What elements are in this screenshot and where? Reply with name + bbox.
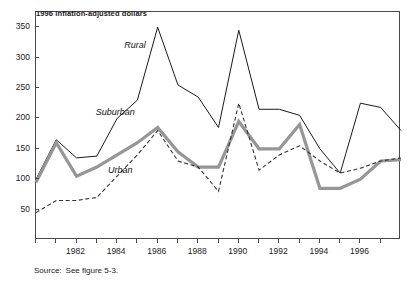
y-tick-label: 100 (16, 173, 30, 183)
x-tick-mark (299, 239, 300, 243)
x-tick-label: 1988 (188, 246, 207, 256)
x-tick-mark (136, 239, 137, 243)
series-label-suburban: Suburban (96, 107, 135, 117)
source-note: Source:See figure 5-3. (34, 266, 118, 275)
x-tick-mark (157, 239, 158, 243)
y-tick-label: 50 (21, 204, 30, 214)
x-tick-label: 1984 (107, 246, 126, 256)
x-tick-mark (35, 239, 36, 243)
x-tick-mark (359, 239, 360, 243)
plot-area: 1996 inflation-adjusted dollars (35, 11, 400, 239)
y-tick-label: 150 (16, 143, 30, 153)
x-tick-label: 1992 (269, 246, 288, 256)
series-lines (36, 12, 401, 240)
series-label-urban: Urban (108, 165, 133, 175)
x-tick-label: 1982 (66, 246, 85, 256)
y-tick-mark (35, 57, 39, 58)
chart-figure: 1996 inflation-adjusted dollars 50100150… (0, 0, 408, 281)
y-tick-mark (35, 26, 39, 27)
y-tick-label: 250 (16, 82, 30, 92)
y-tick-label: 350 (16, 21, 30, 31)
series-line-rural (36, 27, 401, 179)
x-tick-label: 1990 (228, 246, 247, 256)
x-tick-mark (339, 239, 340, 243)
x-tick-mark (197, 239, 198, 243)
x-tick-mark (96, 239, 97, 243)
x-tick-label: 1986 (147, 246, 166, 256)
series-line-suburban (36, 121, 401, 188)
y-tick-mark (35, 87, 39, 88)
source-text: See figure 5-3. (66, 266, 118, 275)
x-tick-mark (380, 239, 381, 243)
x-tick-mark (238, 239, 239, 243)
x-tick-mark (55, 239, 56, 243)
x-tick-label: 1994 (309, 246, 328, 256)
series-line-urban (36, 103, 401, 212)
x-tick-mark (76, 239, 77, 243)
series-label-rural: Rural (124, 40, 146, 50)
x-tick-mark (218, 239, 219, 243)
source-label: Source: (34, 266, 62, 275)
x-tick-mark (278, 239, 279, 243)
x-tick-mark (319, 239, 320, 243)
x-tick-mark (177, 239, 178, 243)
x-tick-mark (116, 239, 117, 243)
y-tick-mark (35, 148, 39, 149)
y-tick-label: 300 (16, 52, 30, 62)
y-tick-mark (35, 178, 39, 179)
y-tick-label: 200 (16, 112, 30, 122)
x-tick-label: 1996 (350, 246, 369, 256)
y-tick-mark (35, 209, 39, 210)
x-tick-mark (258, 239, 259, 243)
y-tick-mark (35, 117, 39, 118)
